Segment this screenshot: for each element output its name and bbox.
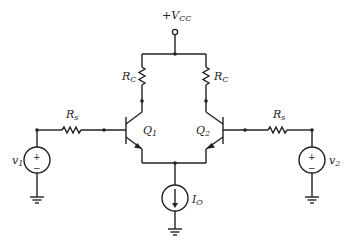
ground-icon xyxy=(305,197,319,203)
svg-text:Rs: Rs xyxy=(272,108,285,122)
svg-text:−: − xyxy=(33,163,41,173)
svg-text:v1: v1 xyxy=(12,154,23,168)
rs-left-resistor: Rs xyxy=(35,108,126,133)
svg-text:+VCC: +VCC xyxy=(162,9,191,23)
ground-icon xyxy=(30,197,44,203)
rs-right-resistor: Rs xyxy=(223,108,314,133)
vcc-terminal: +VCC xyxy=(162,9,191,56)
svg-text:RC: RC xyxy=(213,70,228,84)
svg-text:Q2: Q2 xyxy=(196,124,210,138)
svg-text:IO: IO xyxy=(191,193,203,207)
svg-text:+: + xyxy=(308,152,316,162)
v1-voltage-source: + − v1 xyxy=(12,130,50,197)
q2-transistor: Q2 xyxy=(196,112,223,163)
emitter-rail xyxy=(142,161,206,185)
io-current-source: IO xyxy=(162,185,203,229)
rc-right-resistor: RC xyxy=(203,54,228,112)
q1-transistor: Q1 xyxy=(126,112,157,163)
svg-text:RC: RC xyxy=(121,70,136,84)
svg-text:Rs: Rs xyxy=(65,108,78,122)
svg-text:+: + xyxy=(33,152,41,162)
svg-text:v2: v2 xyxy=(329,154,340,168)
rc-left-resistor: RC xyxy=(121,54,145,112)
ground-icon xyxy=(168,229,182,235)
svg-text:−: − xyxy=(308,163,316,173)
svg-text:Q1: Q1 xyxy=(143,124,157,138)
differential-pair-circuit: +VCC RC RC Q1 Q2 xyxy=(0,0,347,250)
v2-voltage-source: + − v2 xyxy=(299,130,340,197)
